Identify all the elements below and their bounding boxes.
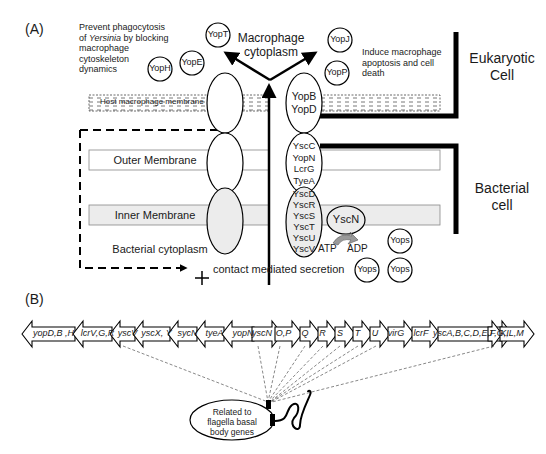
effector-label: YopP bbox=[323, 67, 351, 77]
eukaryotic-cell-label: Eukaryotic Cell bbox=[462, 50, 542, 84]
gene-label: yopD,B ,H bbox=[27, 328, 80, 338]
gene-label: S bbox=[330, 328, 350, 338]
bacterial-cell-label: Bacterial cell bbox=[462, 180, 542, 214]
panel-a-label: (A) bbox=[25, 21, 44, 37]
gene-label: lcrV,G,R bbox=[78, 328, 117, 338]
yscn-label: YscN bbox=[328, 213, 364, 225]
gene-label: tyeA bbox=[200, 328, 229, 338]
macrophage-cytoplasm-label: Macrophage cytoplasm bbox=[236, 31, 306, 59]
left-translocon-ellipse bbox=[207, 73, 243, 133]
gene-label: O,P bbox=[270, 328, 297, 338]
host-membrane-label: Host macrophage membrane bbox=[100, 97, 204, 106]
gene-label: Q bbox=[295, 328, 315, 338]
left-outer-ring-ellipse bbox=[207, 133, 243, 193]
secreted-yops-label: Yops bbox=[386, 235, 414, 245]
inner-ring-label: YscD YscR YscS YscT YscU YscV bbox=[286, 188, 322, 254]
flagella-note: Related to flagella basal body genes bbox=[192, 407, 272, 437]
gene-label: yscV bbox=[115, 328, 140, 338]
figure-stage: (A) (B) Prevent phagocytosis of Yersinia… bbox=[0, 0, 546, 454]
translocon-label: YopB YopD bbox=[286, 90, 322, 116]
outer-ring-label: YscC YopN LcrG TyeA bbox=[286, 140, 322, 186]
bacterial-cytoplasm-label: Bacterial cytoplasm bbox=[105, 243, 215, 255]
apoptosis-note: Induce macrophage apoptosis and cell dea… bbox=[362, 47, 442, 79]
flagella-link-lines bbox=[123, 346, 494, 402]
outer-membrane-right bbox=[320, 150, 440, 170]
gene-label: K,L,M bbox=[495, 328, 529, 338]
effector-label: YopJ bbox=[326, 34, 354, 44]
contact-secretion-label: contact mediated secretion bbox=[213, 263, 344, 275]
effector-label: YopT bbox=[204, 29, 232, 39]
adp-label: ADP bbox=[347, 243, 368, 254]
gene-label: virG bbox=[383, 328, 409, 338]
inner-membrane-label: Inner Membrane bbox=[100, 209, 210, 221]
gene-label: sycN bbox=[173, 328, 202, 338]
effector-label: YopH bbox=[146, 63, 174, 73]
panel-b-label: (B) bbox=[25, 291, 44, 307]
outer-membrane-label: Outer Membrane bbox=[100, 154, 210, 166]
gene-label: U bbox=[365, 328, 385, 338]
effector-label: YopE bbox=[178, 57, 206, 67]
secreted-yops-label: Yops bbox=[353, 264, 381, 274]
secreted-yops-label: Yops bbox=[386, 264, 414, 274]
gene-label: yscX, Y bbox=[138, 328, 175, 338]
atp-label: ATP bbox=[318, 243, 337, 254]
gene-label: lcrF bbox=[407, 328, 435, 338]
